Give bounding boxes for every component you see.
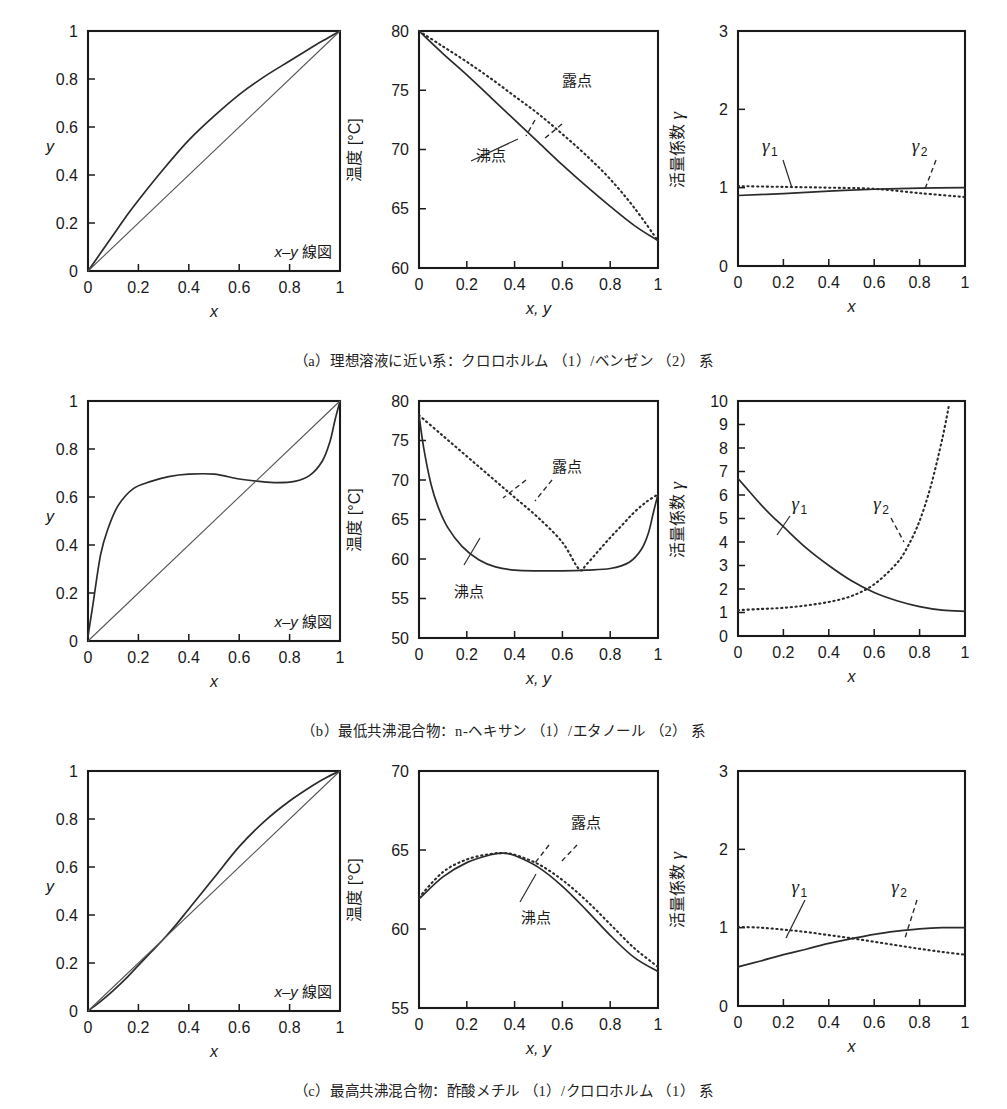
y-tick-label: 0.6 [56, 119, 78, 136]
annotation-dew-point: 露点 [552, 458, 582, 475]
y-tick-label: 0.4 [56, 167, 78, 184]
x-tick-label: 0.4 [178, 649, 200, 666]
caption-b: （b）最低共沸混合物：n-ヘキサン （1）/エタノール （2） 系 [0, 719, 1007, 740]
panel-a-txy-diagram: 00.20.40.60.816065707580温度 [°C]x, y露点沸点 [330, 0, 665, 330]
panel-c-gamma-diagram: 00.20.40.60.810123活量係数 γxγ1γ2 [655, 740, 1007, 1070]
x-tick-label: 0.8 [278, 649, 300, 666]
plot-frame [419, 771, 658, 1008]
y-tick-label: 80 [391, 393, 409, 410]
chart-a-txy: 00.20.40.60.816065707580温度 [°C]x, y露点沸点 [330, 0, 665, 330]
x-tick-label: 0.6 [551, 646, 573, 663]
y-tick-label: 75 [391, 82, 409, 99]
x-axis-label: x, y [525, 300, 552, 317]
y-tick-label: 0 [719, 258, 728, 275]
y-tick-label: 65 [391, 511, 409, 528]
chart-b-xy: 00.20.40.60.8100.20.40.60.81yxx–y 線図 [0, 370, 345, 700]
annotation-boiling-point: 沸点 [521, 909, 551, 926]
chart-c-gamma: 00.20.40.60.810123活量係数 γxγ1γ2 [655, 740, 1007, 1070]
x-tick-label: 0 [734, 1014, 743, 1031]
y-axis-label: y [45, 878, 55, 895]
y-tick-label: 0 [69, 1003, 78, 1020]
x-tick-label: 0.8 [908, 1014, 930, 1031]
y-tick-label: 2 [719, 841, 728, 858]
series-bubblepoint [419, 31, 658, 241]
x-tick-label: 0.6 [551, 276, 573, 293]
x-axis-label: x [209, 673, 219, 690]
panel-c-txy-diagram: 00.20.40.60.8155606570温度 [°C]x, y露点沸点 [330, 740, 665, 1070]
x-tick-label: 0.6 [228, 279, 250, 296]
y-tick-label: 2 [719, 101, 728, 118]
x-tick-label: 0.2 [456, 1016, 478, 1033]
y-tick-label: 0 [719, 628, 728, 645]
x-tick-label: 0.6 [863, 274, 885, 291]
series-yx [88, 31, 340, 271]
x-tick-label: 0.8 [599, 1016, 621, 1033]
x-tick-label: 0 [734, 644, 743, 661]
caption-c: （c）最高共沸混合物：酢酸メチル （1）/クロロホルム （1） 系 [0, 1079, 1007, 1100]
annotation-leader [891, 518, 904, 542]
panel-inline-title: x–y 線図 [273, 983, 332, 1000]
y-tick-label: 0.8 [56, 441, 78, 458]
annotation-gamma1: γ1 [762, 135, 778, 159]
y-tick-label: 0.8 [56, 811, 78, 828]
x-tick-label: 0.2 [456, 646, 478, 663]
series-γ1 [738, 928, 965, 967]
annotation-gamma2: γ2 [891, 876, 907, 900]
annotation-boiling-point: 沸点 [454, 583, 484, 600]
x-tick-label: 0.4 [818, 274, 840, 291]
plot-frame [419, 401, 658, 638]
y-tick-label: 60 [391, 260, 409, 277]
annotation-dew-point: 露点 [562, 72, 592, 89]
x-axis-label: x [847, 1038, 857, 1055]
x-tick-label: 0 [734, 274, 743, 291]
x-axis-label: x [847, 668, 857, 685]
x-tick-label: 0.2 [127, 1019, 149, 1036]
x-tick-label: 0.4 [503, 646, 525, 663]
x-tick-label: 0.2 [772, 644, 794, 661]
x-tick-label: 0 [84, 279, 93, 296]
y-tick-label: 0.2 [56, 955, 78, 972]
y-tick-label: 55 [391, 1000, 409, 1017]
chart-b-txy: 00.20.40.60.8150556065707580温度 [°C]x, y露… [330, 370, 665, 700]
y-tick-label: 5 [719, 510, 728, 527]
y-tick-label: 1 [69, 393, 78, 410]
series-γ2 [738, 927, 965, 955]
y-tick-label: 0.6 [56, 489, 78, 506]
y-tick-label: 70 [391, 472, 409, 489]
y-tick-label: 2 [719, 581, 728, 598]
plot-frame [419, 31, 658, 268]
x-tick-label: 0.6 [228, 1019, 250, 1036]
annotation-leader [526, 120, 535, 136]
x-axis-label: x [209, 303, 219, 320]
panel-a-gamma-diagram: 00.20.40.60.810123活量係数 γxγ1γ2 [655, 0, 1007, 330]
chart-a-xy: 00.20.40.60.8100.20.40.60.81yxx–y 線図 [0, 0, 345, 330]
y-tick-label: 3 [719, 763, 728, 780]
y-tick-label: 65 [391, 842, 409, 859]
y-axis-label: y [45, 508, 55, 525]
chart-a-gamma: 00.20.40.60.810123活量係数 γxγ1γ2 [655, 0, 1007, 330]
annotation-boiling-point: 沸点 [476, 147, 506, 164]
annotation-gamma2: γ2 [873, 493, 889, 517]
y-tick-label: 0.6 [56, 859, 78, 876]
y-axis-label: 温度 [°C] [346, 488, 363, 551]
x-tick-label: 0.2 [456, 276, 478, 293]
y-tick-label: 50 [391, 630, 409, 647]
x-tick-label: 0.4 [818, 644, 840, 661]
x-tick-label: 0 [84, 649, 93, 666]
y-tick-label: 10 [710, 393, 728, 410]
series-γ1 [738, 479, 965, 612]
y-tick-label: 65 [391, 200, 409, 217]
panel-c-xy-diagram: 00.20.40.60.8100.20.40.60.81yxx–y 線図 [0, 740, 345, 1070]
annotation-gamma2: γ2 [912, 135, 928, 159]
x-tick-label: 1 [961, 274, 970, 291]
y-tick-label: 0 [69, 633, 78, 650]
annotation-leader [786, 900, 805, 938]
y-tick-label: 80 [391, 23, 409, 40]
annotation-leader [783, 160, 792, 188]
x-tick-label: 0.6 [228, 649, 250, 666]
x-tick-label: 0.8 [599, 276, 621, 293]
y-tick-label: 70 [391, 763, 409, 780]
x-tick-label: 0.2 [127, 279, 149, 296]
y-tick-label: 1 [719, 179, 728, 196]
series-dewpoint [419, 415, 658, 570]
